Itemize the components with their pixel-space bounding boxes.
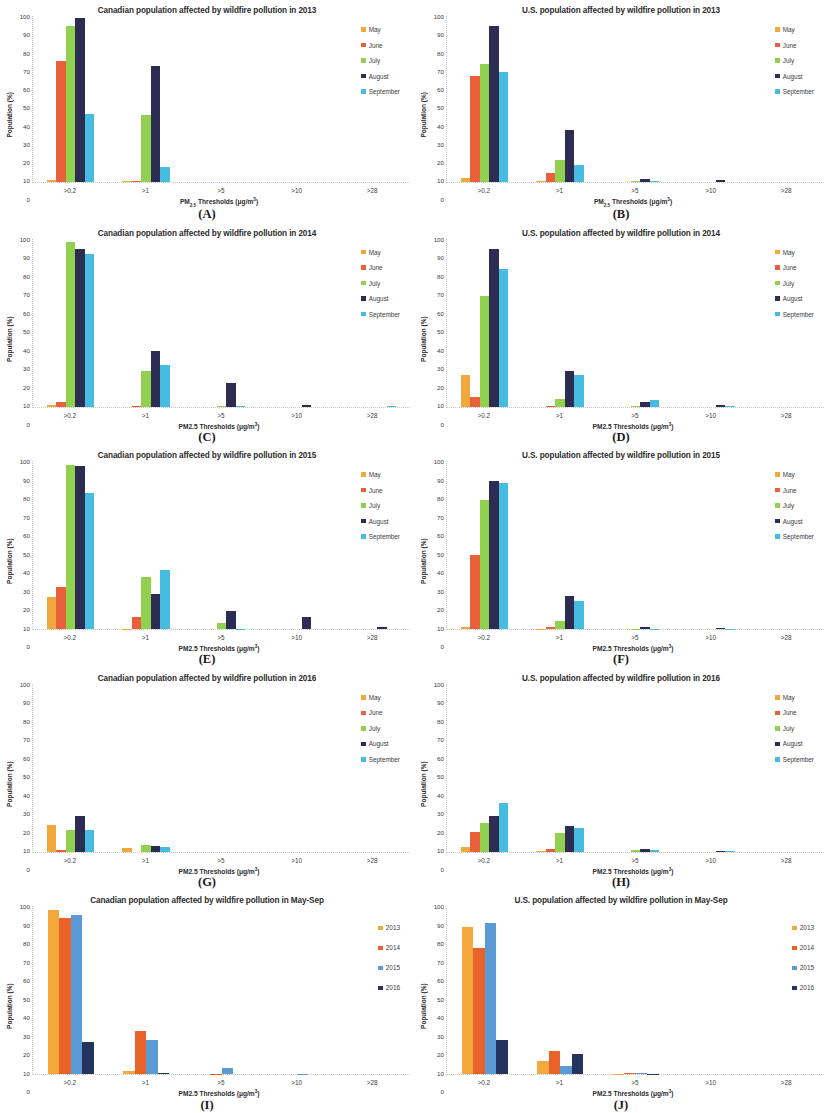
legend-swatch-icon	[775, 472, 780, 477]
chart-title: Canadian population affected by wildfire…	[4, 674, 410, 683]
bar-group	[259, 684, 334, 852]
bar	[574, 601, 584, 629]
bar-group	[522, 239, 597, 407]
chart-title: Canadian population affected by wildfire…	[4, 451, 410, 460]
plot-area	[446, 684, 824, 853]
plot-area	[446, 461, 824, 630]
y-axis-tick: 50	[23, 995, 30, 1002]
legend-label: May	[783, 26, 795, 33]
panel-letter-label: (I)	[4, 1099, 410, 1113]
legend-swatch-icon	[361, 742, 366, 747]
bar-groups	[447, 239, 824, 407]
legend-item: May	[361, 471, 400, 478]
bar	[122, 629, 132, 630]
panel-letter-label: (J)	[418, 1099, 824, 1113]
y-axis-tick: 0	[27, 643, 30, 650]
chart-body: Population (%)1009080706050403020100>0.2…	[418, 684, 824, 869]
bar	[66, 26, 76, 182]
chart-body: Population (%)1009080706050403020100>0.2…	[4, 239, 410, 424]
y-axis-tick: 50	[437, 550, 444, 557]
bar	[461, 375, 471, 407]
legend-swatch-icon	[775, 89, 780, 94]
y-axis-tick: 70	[437, 67, 444, 74]
bar-group	[598, 461, 673, 629]
bar	[489, 26, 499, 182]
legend-item: 2014	[378, 944, 400, 951]
chart-legend: MayJuneJulyAugustSeptember	[775, 694, 814, 763]
legend-swatch-icon	[361, 265, 366, 270]
legend-swatch-icon	[361, 519, 366, 524]
chart-panel-d: U.S. population affected by wildfire pol…	[414, 223, 828, 446]
y-axis-tick: 0	[27, 865, 30, 872]
bar-groups	[33, 461, 410, 629]
y-axis-tick: 100	[20, 458, 30, 465]
bar-group	[259, 461, 334, 629]
legend-swatch-icon	[775, 296, 780, 301]
legend-label: June	[369, 709, 383, 716]
panel-letter-label: (H)	[418, 876, 824, 891]
bar	[210, 1074, 222, 1075]
panel-letter-label: (B)	[418, 208, 824, 223]
legend-item: September	[775, 311, 814, 318]
y-axis-tick: 30	[23, 1032, 30, 1039]
bar	[631, 850, 641, 851]
bar-group	[259, 16, 334, 182]
y-axis-tick: 10	[23, 1069, 30, 1076]
bar-groups	[447, 906, 824, 1074]
y-axis-tick: 30	[437, 1032, 444, 1039]
legend-item: 2014	[792, 944, 814, 951]
bar-group	[108, 906, 183, 1074]
chart-title: U.S. population affected by wildfire pol…	[418, 229, 824, 238]
legend-swatch-icon	[775, 695, 780, 700]
chart-legend: MayJuneJulyAugustSeptember	[775, 249, 814, 318]
bar	[85, 830, 95, 852]
bar	[470, 555, 480, 629]
legend-item: September	[361, 756, 400, 763]
bar	[132, 617, 142, 629]
legend-label: June	[369, 487, 383, 494]
bar	[496, 1040, 508, 1074]
bar	[151, 846, 161, 852]
bar	[489, 481, 499, 629]
y-axis-label: Population (%)	[418, 239, 429, 424]
chart-title: U.S. population affected by wildfire pol…	[418, 451, 824, 460]
legend-label: 2013	[386, 924, 400, 931]
bar	[480, 296, 490, 407]
y-axis-tick: 80	[23, 717, 30, 724]
legend-label: September	[369, 756, 400, 763]
plot-area	[32, 906, 410, 1075]
x-axis-label: PM2.5 Thresholds (μg/m3)	[4, 644, 410, 652]
y-axis-tick: 80	[437, 272, 444, 279]
chart-body: Population (%)1009080706050403020100>0.2…	[4, 16, 410, 199]
legend-swatch-icon	[775, 43, 780, 48]
bar	[71, 915, 83, 1075]
bar	[546, 627, 556, 630]
y-axis-tick: 10	[437, 847, 444, 854]
y-axis-tick: 40	[437, 569, 444, 576]
y-axis-tick: 30	[437, 587, 444, 594]
chart-title: Canadian population affected by wildfire…	[4, 896, 410, 905]
bar	[485, 923, 497, 1074]
y-axis-tick: 90	[23, 254, 30, 261]
y-axis-tick: 10	[437, 402, 444, 409]
legend-label: August	[369, 295, 389, 302]
y-axis-tick: 30	[23, 140, 30, 147]
bar	[226, 611, 236, 629]
bar	[565, 371, 575, 406]
bar	[462, 927, 474, 1075]
bar-group	[108, 16, 183, 182]
bar	[151, 351, 161, 406]
x-axis-label: PM2.5 Thresholds (μg/m3)	[4, 1089, 410, 1097]
legend-item: August	[775, 295, 814, 302]
legend-swatch-icon	[361, 89, 366, 94]
y-axis-tick: 10	[23, 177, 30, 184]
y-axis-label: Population (%)	[4, 461, 15, 646]
y-axis-tick: 100	[434, 13, 444, 20]
plot-area	[446, 16, 824, 183]
bar-group	[598, 239, 673, 407]
legend-label: July	[783, 57, 794, 64]
bar	[56, 61, 66, 182]
bar-groups	[447, 16, 824, 182]
bar	[574, 828, 584, 852]
y-axis-tick: 90	[437, 254, 444, 261]
